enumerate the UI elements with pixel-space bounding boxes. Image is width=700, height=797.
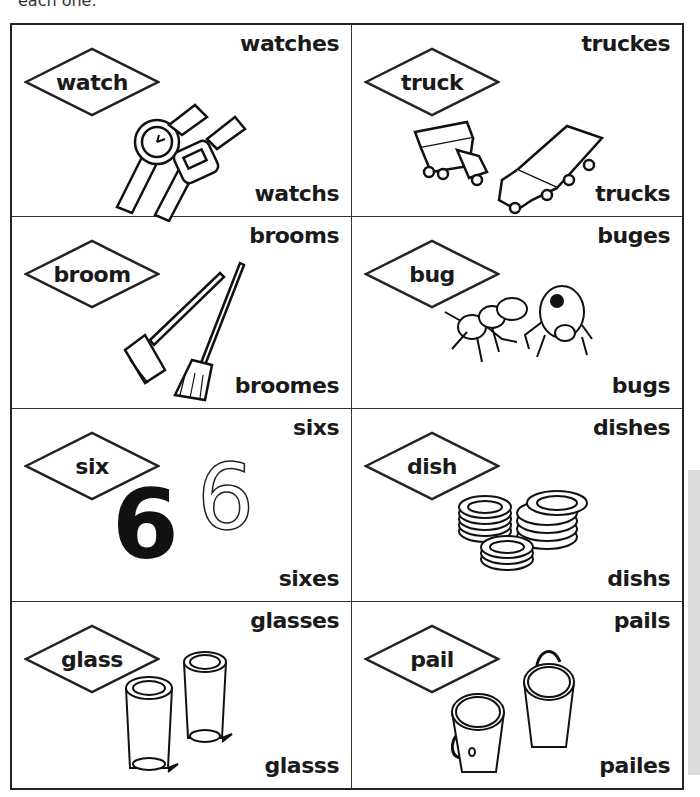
bugs-icon [437, 277, 597, 377]
card-dish: dish dishes dishs [352, 409, 682, 602]
worksheet-grid: watch watches watchs truck truckes truck… [10, 23, 684, 790]
plural-option-top[interactable]: dishes [593, 415, 670, 440]
card-pail: pail pails pailes [352, 602, 682, 788]
card-six: six sixs sixes 6 6 [12, 409, 352, 602]
word-diamond: truck [364, 47, 500, 117]
plural-option-bottom[interactable]: sixes [279, 566, 339, 591]
card-glass: glass glasses glasss [12, 602, 352, 788]
card-broom: broom brooms broomes [12, 217, 352, 409]
page-edge-tab [688, 470, 700, 775]
instruction-text: each one. [18, 0, 97, 10]
plural-option-bottom[interactable]: dishs [607, 566, 670, 591]
watches-icon [107, 97, 267, 222]
plural-option-bottom[interactable]: watchs [255, 181, 339, 206]
plural-option-bottom[interactable]: bugs [612, 373, 670, 398]
dishes-icon [457, 487, 597, 577]
plural-option-top[interactable]: buges [597, 223, 670, 248]
plural-option-top[interactable]: watches [240, 31, 339, 56]
glasses-icon [122, 650, 252, 775]
card-watch: watch watches watchs [12, 25, 352, 217]
solid-six-digit: 6 [112, 477, 179, 573]
brooms-icon [120, 255, 260, 405]
trucks-icon [407, 110, 607, 215]
plural-option-bottom[interactable]: pailes [599, 753, 670, 778]
plural-option-top[interactable]: pails [614, 608, 670, 633]
card-truck: truck truckes trucks [352, 25, 682, 217]
plural-option-top[interactable]: truckes [581, 31, 670, 56]
plural-option-top[interactable]: glasses [250, 608, 339, 633]
plural-option-top[interactable]: brooms [249, 223, 339, 248]
pails-icon [442, 642, 592, 777]
plural-option-top[interactable]: sixs [293, 415, 339, 440]
card-bug: bug buges bugs [352, 217, 682, 409]
outline-six-digit: 6 [197, 453, 254, 543]
plural-option-bottom[interactable]: glasss [265, 753, 339, 778]
base-word: truck [364, 47, 500, 117]
